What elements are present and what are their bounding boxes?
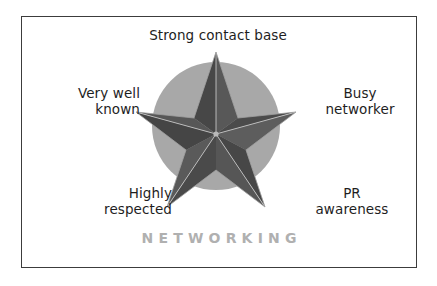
axis-label-very-well-known: Very well known	[30, 86, 140, 117]
figure-caption: NETWORKING	[21, 230, 417, 246]
axis-label-busy-networker: Busy networker	[300, 86, 420, 117]
networking-star-figure: Strong contact base Very well known Busy…	[0, 0, 437, 286]
axis-label-strong-contact-base: Strong contact base	[118, 28, 318, 44]
axis-label-pr-awareness: PR awareness	[292, 186, 412, 217]
axis-label-highly-respected: Highly respected	[50, 186, 172, 217]
